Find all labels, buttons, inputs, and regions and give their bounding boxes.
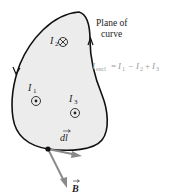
svg-text:=: =	[111, 61, 116, 71]
svg-text:1: 1	[33, 87, 37, 95]
svg-text:encl: encl	[96, 66, 106, 72]
svg-text:I: I	[68, 93, 73, 104]
ampere-loop-diagram: Plane of curve I encl = I 1 − I 2 + I 3 …	[0, 0, 173, 196]
svg-text:dl: dl	[60, 132, 68, 143]
arrowhead-icon	[60, 177, 67, 188]
enclosed-current-equation: I encl = I 1 − I 2 + I 3	[91, 61, 159, 72]
svg-text:−: −	[128, 61, 133, 71]
svg-text:3: 3	[156, 66, 159, 72]
svg-text:B: B	[71, 183, 79, 194]
plane-label-line1: Plane of	[96, 18, 128, 28]
arrowhead-icon	[71, 151, 82, 158]
svg-text:1: 1	[122, 66, 125, 72]
svg-text:3: 3	[74, 98, 78, 106]
svg-text:I: I	[27, 82, 32, 93]
svg-text:I: I	[49, 35, 54, 46]
closed-curve	[12, 12, 107, 150]
svg-text:2: 2	[140, 66, 143, 72]
curve-point	[45, 146, 50, 151]
plane-label-line2: curve	[101, 29, 122, 39]
svg-text:+: +	[145, 61, 150, 71]
